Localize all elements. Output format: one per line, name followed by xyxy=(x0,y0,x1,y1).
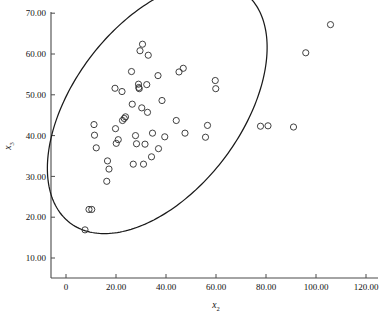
data-point xyxy=(204,122,210,128)
data-point xyxy=(176,69,182,75)
data-point xyxy=(91,121,97,127)
data-point xyxy=(115,137,121,143)
y-tick-label: 50.00 xyxy=(26,90,47,100)
data-point xyxy=(265,123,271,129)
data-point xyxy=(290,124,296,130)
data-point xyxy=(149,130,155,136)
data-point xyxy=(182,130,188,136)
scatter-plot-figure: 10.0020.0030.0040.0050.0060.0070.00020.0… xyxy=(0,0,391,322)
plot-canvas: 10.0020.0030.0040.0050.0060.0070.00020.0… xyxy=(0,0,391,322)
data-point xyxy=(104,178,110,184)
data-point xyxy=(112,126,118,132)
y-tick-label: 70.00 xyxy=(26,8,47,18)
data-point xyxy=(202,134,208,140)
data-point xyxy=(139,105,145,111)
data-point xyxy=(212,77,218,83)
confidence-ellipse xyxy=(47,0,267,234)
x-tick-label: 80.00 xyxy=(256,282,277,292)
y-tick-label: 10.00 xyxy=(26,253,47,263)
data-point xyxy=(159,97,165,103)
data-point xyxy=(173,117,179,123)
axes-group xyxy=(51,12,378,278)
data-point xyxy=(155,73,161,79)
data-point xyxy=(137,48,143,54)
data-point xyxy=(145,52,151,58)
data-point xyxy=(129,101,135,107)
y-tick-label: 60.00 xyxy=(26,49,47,59)
data-point xyxy=(213,86,219,92)
data-point xyxy=(180,65,186,71)
data-point xyxy=(106,166,112,172)
x-tick-label: 100.00 xyxy=(304,282,329,292)
data-point xyxy=(104,158,110,164)
x-tick-label: 120.00 xyxy=(354,282,379,292)
data-point xyxy=(91,132,97,138)
confidence-ellipse-group xyxy=(47,0,267,234)
data-point xyxy=(130,161,136,167)
data-point xyxy=(128,68,134,74)
x-tick-label: 20.00 xyxy=(106,282,127,292)
data-point xyxy=(303,50,309,56)
data-point xyxy=(144,109,150,115)
y-tick-label: 30.00 xyxy=(26,172,47,182)
data-point xyxy=(113,140,119,146)
data-point xyxy=(140,161,146,167)
x-tick-label: 60.00 xyxy=(206,282,227,292)
y-tick-label: 40.00 xyxy=(26,131,47,141)
data-point xyxy=(144,82,150,88)
y-tick-label: 20.00 xyxy=(26,212,47,222)
data-points-group xyxy=(82,22,334,233)
data-point xyxy=(112,85,118,91)
data-point xyxy=(133,141,139,147)
data-point xyxy=(93,145,99,151)
data-point xyxy=(132,133,138,139)
data-point xyxy=(257,123,263,129)
axis-labels-group: 10.0020.0030.0040.0050.0060.0070.00020.0… xyxy=(3,8,379,311)
data-point xyxy=(142,141,148,147)
x-tick-label: 0 xyxy=(64,282,69,292)
y-axis-title: x3 xyxy=(3,142,15,150)
data-point xyxy=(139,41,145,47)
data-point xyxy=(155,146,161,152)
data-point xyxy=(148,154,154,160)
data-point xyxy=(119,88,125,94)
x-tick-label: 40.00 xyxy=(156,282,177,292)
x-axis-title: x2 xyxy=(211,300,219,312)
data-point xyxy=(327,22,333,28)
data-point xyxy=(162,134,168,140)
